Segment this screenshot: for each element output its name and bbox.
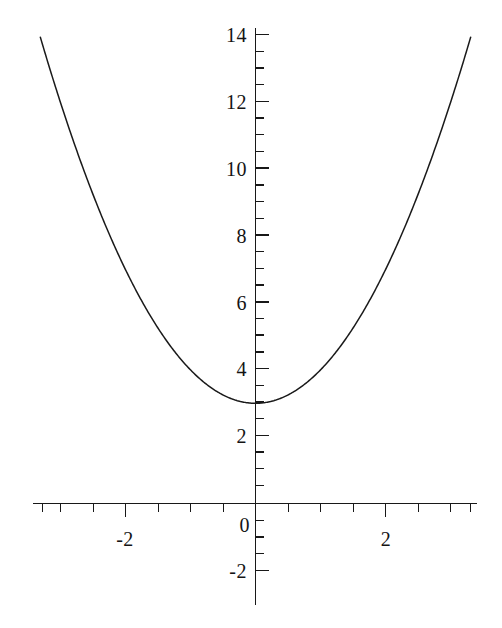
x-tick-label-neg2: -2 [116, 528, 134, 550]
y-tick-label-14: 14 [226, 24, 247, 46]
x-axis-ticks [43, 504, 471, 518]
y-tick-label-6: 6 [237, 292, 248, 314]
x-tick-label-2: 2 [381, 528, 392, 550]
y-tick-label-neg2: -2 [229, 560, 247, 582]
y-tick-label-12: 12 [226, 91, 247, 113]
y-tick-labels: 14 12 10 8 6 4 2 -2 [226, 24, 247, 582]
y-tick-label-10: 10 [226, 158, 247, 180]
origin-label: 0 [240, 514, 251, 536]
y-axis-ticks [256, 35, 270, 571]
y-tick-label-8: 8 [237, 225, 248, 247]
parabola-chart: 14 12 10 8 6 4 2 -2 -2 0 2 [0, 0, 502, 628]
axes-group [33, 28, 477, 605]
y-tick-label-4: 4 [237, 358, 248, 380]
y-tick-label-2: 2 [237, 425, 248, 447]
plot-canvas: 14 12 10 8 6 4 2 -2 -2 0 2 [0, 0, 502, 628]
x-tick-labels: -2 0 2 [116, 514, 391, 550]
